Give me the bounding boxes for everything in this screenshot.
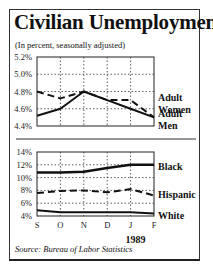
y-tick-label: 5.2% bbox=[14, 52, 32, 62]
y-tick-label: 14% bbox=[16, 147, 32, 157]
y-tick-label: 10% bbox=[16, 173, 32, 183]
y-tick-label: 5.0% bbox=[14, 69, 32, 79]
x-tick-label: S bbox=[35, 220, 40, 230]
x-tick-label: F bbox=[152, 220, 157, 230]
y-tick-label: 4.8% bbox=[14, 87, 32, 97]
y-tick-label: 6% bbox=[21, 198, 32, 208]
race-chart: 14%12%10%8%6%4%BlackHispanicWhiteSONDJF1… bbox=[16, 147, 196, 245]
series-line-white bbox=[37, 210, 154, 213]
x-tick-label: N bbox=[81, 220, 87, 230]
series-line-black bbox=[37, 165, 154, 173]
source-note: Source: Bureau of Labor Statistics bbox=[15, 244, 132, 254]
series-label: Black bbox=[158, 161, 183, 172]
series-label: Adult bbox=[158, 92, 183, 103]
plot-area bbox=[37, 152, 154, 216]
y-tick-label: 4.4% bbox=[14, 121, 32, 131]
y-tick-label: 4% bbox=[21, 211, 32, 221]
y-tick-label: 12% bbox=[16, 160, 32, 170]
x-tick-label: J bbox=[129, 220, 133, 230]
charts-canvas: 5.2%5.0%4.8%4.6%4.4%AdultWomenAdultMen14… bbox=[0, 0, 213, 272]
series-label: Men bbox=[158, 120, 178, 131]
y-tick-label: 8% bbox=[21, 185, 32, 195]
series-label: Hispanic bbox=[158, 189, 196, 200]
x-tick-label: O bbox=[57, 220, 63, 230]
x-tick-label: D bbox=[104, 220, 110, 230]
series-label: White bbox=[158, 210, 185, 221]
series-label: Adult bbox=[158, 108, 183, 119]
y-tick-label: 4.6% bbox=[14, 104, 32, 114]
adult-chart: 5.2%5.0%4.8%4.6%4.4%AdultWomenAdultMen bbox=[14, 52, 191, 131]
